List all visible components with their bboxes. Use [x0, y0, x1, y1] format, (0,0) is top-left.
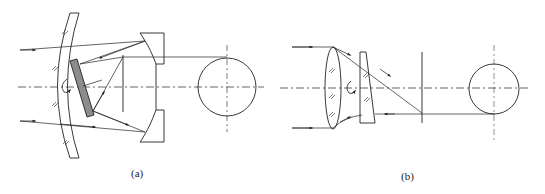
lens-hatch-marks: [329, 68, 335, 117]
panel-label-b: (b): [401, 170, 414, 183]
panel-label-a: (a): [131, 167, 144, 180]
panel-a: [18, 13, 264, 158]
optical-diagram: (a): [0, 0, 545, 194]
corrector-window: [58, 13, 80, 158]
primary-mirror-upper: [140, 33, 164, 64]
primary-mirror-lower: [140, 110, 164, 142]
panel-b: [280, 45, 530, 142]
rotating-wedge-prism: [360, 52, 375, 123]
rotation-arrow-icon: [62, 79, 70, 93]
rotation-arrow-icon-b: [347, 81, 355, 94]
light-rays-a: [20, 41, 227, 132]
light-rays-b: [292, 47, 495, 128]
rotating-plane-mirror: [70, 59, 94, 117]
